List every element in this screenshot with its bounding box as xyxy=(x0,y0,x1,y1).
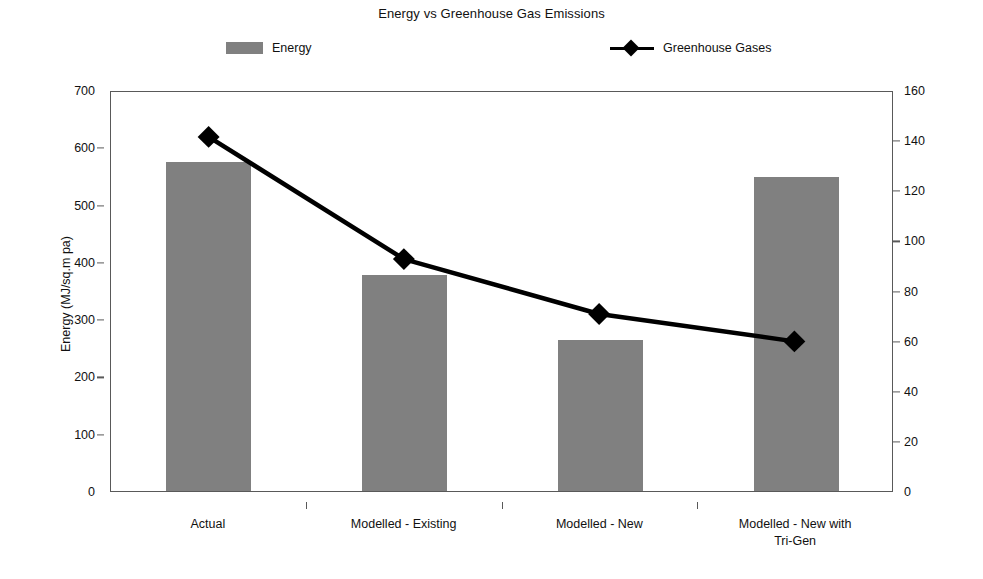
y-axis-left-tick-label: 200 xyxy=(74,371,95,384)
x-axis-label-3: Modelled - New withTri-Gen xyxy=(697,516,893,550)
y-axis-right: Greenhouse Gas Emissions (kgCO2/sq.m pa)… xyxy=(893,91,953,492)
x-axis-tick-mark xyxy=(502,502,503,509)
y-axis-left-tick-label: 0 xyxy=(88,486,95,499)
y-axis-left-tick-mark xyxy=(97,434,104,435)
y-axis-right-tick-mark xyxy=(893,291,900,292)
y-axis-left-title: Energy (MJ/sq.m pa) xyxy=(59,194,73,394)
line-series-greenhouse-gases xyxy=(111,92,892,491)
legend-label-energy: Energy xyxy=(272,41,312,55)
x-axis-label-line: Modelled - New with xyxy=(697,516,893,533)
y-axis-left-tick-label: 300 xyxy=(74,314,95,327)
y-axis-left: Energy (MJ/sq.m pa) 01002003004005006007… xyxy=(44,91,104,492)
y-axis-left-tick-label: 100 xyxy=(74,428,95,441)
x-axis-tick-mark xyxy=(697,502,698,509)
y-axis-right-tick-mark xyxy=(893,441,900,442)
y-axis-right-tick-mark xyxy=(893,191,900,192)
chart-title: Energy vs Greenhouse Gas Emissions xyxy=(0,6,983,21)
y-axis-right-tick-label: 120 xyxy=(904,185,925,198)
x-axis-label-line: Modelled - Existing xyxy=(306,516,502,533)
y-axis-right-tick-mark xyxy=(893,341,900,342)
data-point-3 xyxy=(783,330,805,352)
x-axis-label-line: Modelled - New xyxy=(502,516,698,533)
y-axis-left-tick-label: 500 xyxy=(74,199,95,212)
y-axis-right-tick-label: 0 xyxy=(904,486,911,499)
y-axis-right-tick-label: 100 xyxy=(904,235,925,248)
x-axis-label-1: Modelled - Existing xyxy=(306,516,502,533)
diamond-marker-icon xyxy=(623,40,640,57)
y-axis-right-tick-mark xyxy=(893,241,900,242)
y-axis-right-tick-label: 140 xyxy=(904,135,925,148)
x-axis-label-0: Actual xyxy=(110,516,306,533)
legend-item-energy: Energy xyxy=(226,41,312,55)
y-axis-left-tick-label: 400 xyxy=(74,257,95,270)
chart-container: Energy vs Greenhouse Gas Emissions Energ… xyxy=(0,0,983,579)
y-axis-left-tick-mark xyxy=(97,205,104,206)
data-point-0 xyxy=(198,126,220,148)
x-axis-label-line: Tri-Gen xyxy=(697,533,893,550)
y-axis-right-tick-label: 160 xyxy=(904,85,925,98)
y-axis-right-tick-label: 20 xyxy=(904,436,918,449)
y-axis-left-tick-mark xyxy=(97,320,104,321)
x-axis-label-2: Modelled - New xyxy=(502,516,698,533)
x-axis-label-line: Actual xyxy=(110,516,306,533)
legend-line-marker-icon xyxy=(610,42,654,54)
y-axis-right-tick-mark xyxy=(893,141,900,142)
legend-label-greenhouse-gases: Greenhouse Gases xyxy=(663,41,771,55)
y-axis-right-tick-label: 40 xyxy=(904,386,918,399)
y-axis-left-tick-mark xyxy=(97,148,104,149)
legend-item-greenhouse-gases: Greenhouse Gases xyxy=(610,41,771,55)
x-axis-labels: ActualModelled - ExistingModelled - NewM… xyxy=(110,502,893,562)
y-axis-left-tick-mark xyxy=(97,262,104,263)
data-point-1 xyxy=(393,248,415,270)
line-series-svg xyxy=(111,92,892,491)
y-axis-left-tick-mark xyxy=(97,377,104,378)
y-axis-left-tick-label: 600 xyxy=(74,142,95,155)
y-axis-right-tick-label: 60 xyxy=(904,335,918,348)
x-axis-tick-mark xyxy=(306,502,307,509)
chart-legend: Energy Greenhouse Gases xyxy=(110,38,893,62)
y-axis-left-tick-label: 700 xyxy=(74,85,95,98)
greenhouse-gas-markers xyxy=(198,126,806,352)
greenhouse-gas-line xyxy=(209,137,795,341)
plot-area xyxy=(110,91,893,492)
data-point-2 xyxy=(588,303,610,325)
legend-swatch-icon xyxy=(226,42,263,54)
y-axis-right-tick-label: 80 xyxy=(904,285,918,298)
y-axis-right-tick-mark xyxy=(893,391,900,392)
